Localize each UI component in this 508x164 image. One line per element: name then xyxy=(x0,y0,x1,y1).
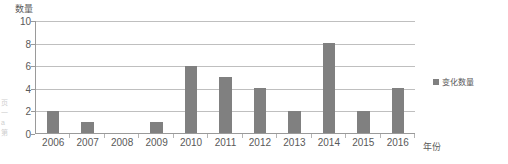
edge-bleed-line: 页 xyxy=(1,98,11,108)
y-tick-label-10: 10 xyxy=(20,16,31,27)
y-tick-label-4: 4 xyxy=(25,83,31,94)
bar-slot xyxy=(381,21,415,133)
x-tick-label: 2010 xyxy=(174,137,208,148)
y-axis-title: 数量 xyxy=(15,2,33,15)
bar xyxy=(254,88,266,133)
y-tick-label-0: 0 xyxy=(25,129,31,140)
y-tick-mark xyxy=(31,134,35,135)
x-tick-label: 2013 xyxy=(277,137,311,148)
legend-swatch-icon xyxy=(433,79,439,85)
y-tick-label-2: 2 xyxy=(25,106,31,117)
y-tick-label-6: 6 xyxy=(25,61,31,72)
bar-slot xyxy=(312,21,346,133)
bar-slot xyxy=(174,21,208,133)
x-tick-label: 2012 xyxy=(243,137,277,148)
x-tick-label: 2009 xyxy=(139,137,173,148)
bar-slot xyxy=(243,21,277,133)
x-tick-label: 2008 xyxy=(105,137,139,148)
x-tick-label: 2011 xyxy=(208,137,242,148)
y-tick-label-8: 8 xyxy=(25,38,31,49)
bar xyxy=(219,77,231,133)
x-axis-tick-labels: 2006200720082009201020112012201320142015… xyxy=(36,137,415,148)
page-edge-bleed-text: 页 一 a 第 xyxy=(1,98,11,138)
bar xyxy=(323,43,335,133)
bar-slot xyxy=(277,21,311,133)
x-tick-label: 2007 xyxy=(70,137,104,148)
bar-slot xyxy=(208,21,242,133)
y-tick-mark xyxy=(31,44,35,45)
edge-bleed-line: 第 xyxy=(1,128,11,138)
y-tick-mark xyxy=(31,21,35,22)
legend: 变化数量 xyxy=(433,76,474,87)
bar-slot xyxy=(139,21,173,133)
bar xyxy=(357,111,369,133)
bar xyxy=(392,88,404,133)
bar xyxy=(288,111,300,133)
x-tick-label: 2014 xyxy=(312,137,346,148)
x-axis-title: 年份 xyxy=(423,140,441,153)
bar xyxy=(185,66,197,133)
bar-series-变化数量 xyxy=(36,21,415,133)
x-tick-label: 2006 xyxy=(36,137,70,148)
y-tick-mark xyxy=(31,66,35,67)
bar-slot xyxy=(36,21,70,133)
x-tick-label: 2015 xyxy=(346,137,380,148)
edge-bleed-line: a xyxy=(1,118,11,128)
x-tick-label: 2016 xyxy=(381,137,415,148)
plot-area: 10 8 6 4 2 0 xyxy=(35,21,415,134)
bar-slot xyxy=(105,21,139,133)
bar xyxy=(81,122,93,133)
bar xyxy=(47,111,59,133)
legend-label: 变化数量 xyxy=(442,76,474,87)
bar-slot xyxy=(70,21,104,133)
bar-slot xyxy=(346,21,380,133)
edge-bleed-line: 一 xyxy=(1,108,11,118)
bar-chart: 页 一 a 第 数量 年份 10 8 6 4 2 0 2006200720082… xyxy=(0,0,508,164)
y-tick-mark xyxy=(31,111,35,112)
y-tick-mark xyxy=(31,89,35,90)
bar xyxy=(150,122,162,133)
